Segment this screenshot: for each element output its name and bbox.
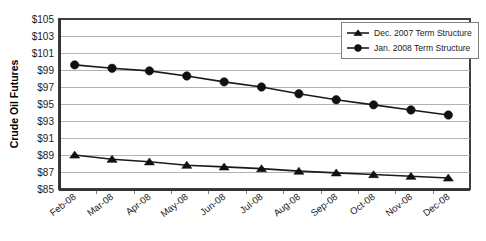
data-point-circle [444,111,452,119]
data-point-circle [369,101,377,109]
chart-legend[interactable]: Dec. 2007 Term StructureJan. 2008 Term S… [342,23,479,59]
y-tick-label: $89 [37,150,54,161]
y-tick-label: $97 [37,82,54,93]
y-tick-label: $105 [32,14,55,25]
data-point-circle [183,72,191,80]
data-point-circle [407,106,415,114]
y-axis-title: Crude Oil Futures [8,60,20,149]
y-tick-label: $95 [37,99,54,110]
x-tick-label: Nov-08 [383,191,414,219]
y-tick-label: $101 [32,48,55,59]
x-tick-label: Mar-08 [85,191,115,218]
x-axis-tick-labels: Feb-08Mar-08Apr-08May-08Jun-08Jul-08Aug-… [47,191,451,219]
chart-canvas: $85$87$89$91$93$95$97$99$101$103$105 Feb… [0,0,486,241]
x-tick-label: Jun-08 [198,191,228,218]
y-tick-label: $103 [32,31,55,42]
x-tick-label: Jul-08 [238,191,265,216]
y-tick-label: $91 [37,133,54,144]
x-tick-label: Oct-08 [348,191,377,217]
data-point-circle [108,64,116,72]
data-point-circle [295,90,303,98]
y-tick-label: $87 [37,167,54,178]
x-tick-label: Apr-08 [123,191,152,217]
y-tick-label: $93 [37,116,54,127]
x-tick-label: Aug-08 [271,191,302,219]
data-point-circle [332,96,340,104]
y-tick-label: $99 [37,65,54,76]
x-tick-label: Dec-08 [421,191,452,219]
crude-oil-futures-chart: $85$87$89$91$93$95$97$99$101$103$105 Feb… [0,0,486,241]
data-point-circle [70,61,78,69]
x-tick-label: Sep-08 [309,191,340,219]
y-axis-tick-labels: $85$87$89$91$93$95$97$99$101$103$105 [32,14,55,195]
y-tick-label: $85 [37,184,54,195]
x-tick-label: May-08 [158,191,190,219]
data-point-circle [220,78,228,86]
data-point-circle [257,83,265,91]
data-point-circle [145,67,153,75]
legend-label: Dec. 2007 Term Structure [374,28,472,38]
legend-label: Jan. 2008 Term Structure [374,43,471,53]
data-point-circle [355,45,362,52]
